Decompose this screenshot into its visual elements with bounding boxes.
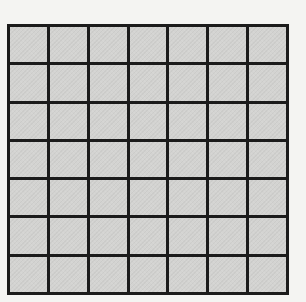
grid-cell-r2-c2: [50, 65, 87, 100]
grid-cell-r2-c6: [209, 65, 246, 100]
grid-cell-r6-c7: [249, 218, 286, 253]
grid-cell-r2-c1: [10, 65, 47, 100]
grid-cell-r4-c5: [169, 142, 206, 177]
grid-cell-r1-c5: [169, 27, 206, 62]
grid-cell-r5-c7: [249, 180, 286, 215]
grid-cell-r3-c2: [50, 104, 87, 139]
grid-cell-r7-c1: [10, 257, 47, 292]
grid-cell-r6-c2: [50, 218, 87, 253]
grid-cell-r2-c5: [169, 65, 206, 100]
grid-cell-r5-c6: [209, 180, 246, 215]
grid-cell-r2-c4: [130, 65, 167, 100]
grid-cell-r4-c4: [130, 142, 167, 177]
grid-cell-r1-c4: [130, 27, 167, 62]
grid-cell-r5-c5: [169, 180, 206, 215]
grid-cell-r5-c3: [90, 180, 127, 215]
grid-cell-r4-c1: [10, 142, 47, 177]
grid-cell-r4-c3: [90, 142, 127, 177]
grid-cell-r2-c3: [90, 65, 127, 100]
grid-cell-r1-c3: [90, 27, 127, 62]
grid-cell-r4-c7: [249, 142, 286, 177]
grid-cell-r3-c4: [130, 104, 167, 139]
grid-cell-r6-c5: [169, 218, 206, 253]
grid-cell-r7-c4: [130, 257, 167, 292]
grid-cell-r7-c6: [209, 257, 246, 292]
square-grid: [7, 24, 289, 295]
grid-cell-r4-c2: [50, 142, 87, 177]
grid-cell-r1-c7: [249, 27, 286, 62]
grid-cell-r6-c6: [209, 218, 246, 253]
grid-cell-r3-c1: [10, 104, 47, 139]
grid-cell-r3-c3: [90, 104, 127, 139]
grid-cell-r3-c5: [169, 104, 206, 139]
grid-cell-r6-c1: [10, 218, 47, 253]
grid-cell-r7-c5: [169, 257, 206, 292]
grid-cell-r7-c7: [249, 257, 286, 292]
grid-cell-r7-c2: [50, 257, 87, 292]
grid-cell-r2-c7: [249, 65, 286, 100]
grid-cell-r3-c7: [249, 104, 286, 139]
grid-cell-r4-c6: [209, 142, 246, 177]
grid-cell-r5-c1: [10, 180, 47, 215]
grid-cell-r6-c3: [90, 218, 127, 253]
grid-cell-r1-c6: [209, 27, 246, 62]
grid-cell-r1-c2: [50, 27, 87, 62]
grid-cell-r5-c4: [130, 180, 167, 215]
grid-cell-r3-c6: [209, 104, 246, 139]
grid-cell-r1-c1: [10, 27, 47, 62]
grid-cell-r6-c4: [130, 218, 167, 253]
grid-cell-r7-c3: [90, 257, 127, 292]
grid-cell-r5-c2: [50, 180, 87, 215]
